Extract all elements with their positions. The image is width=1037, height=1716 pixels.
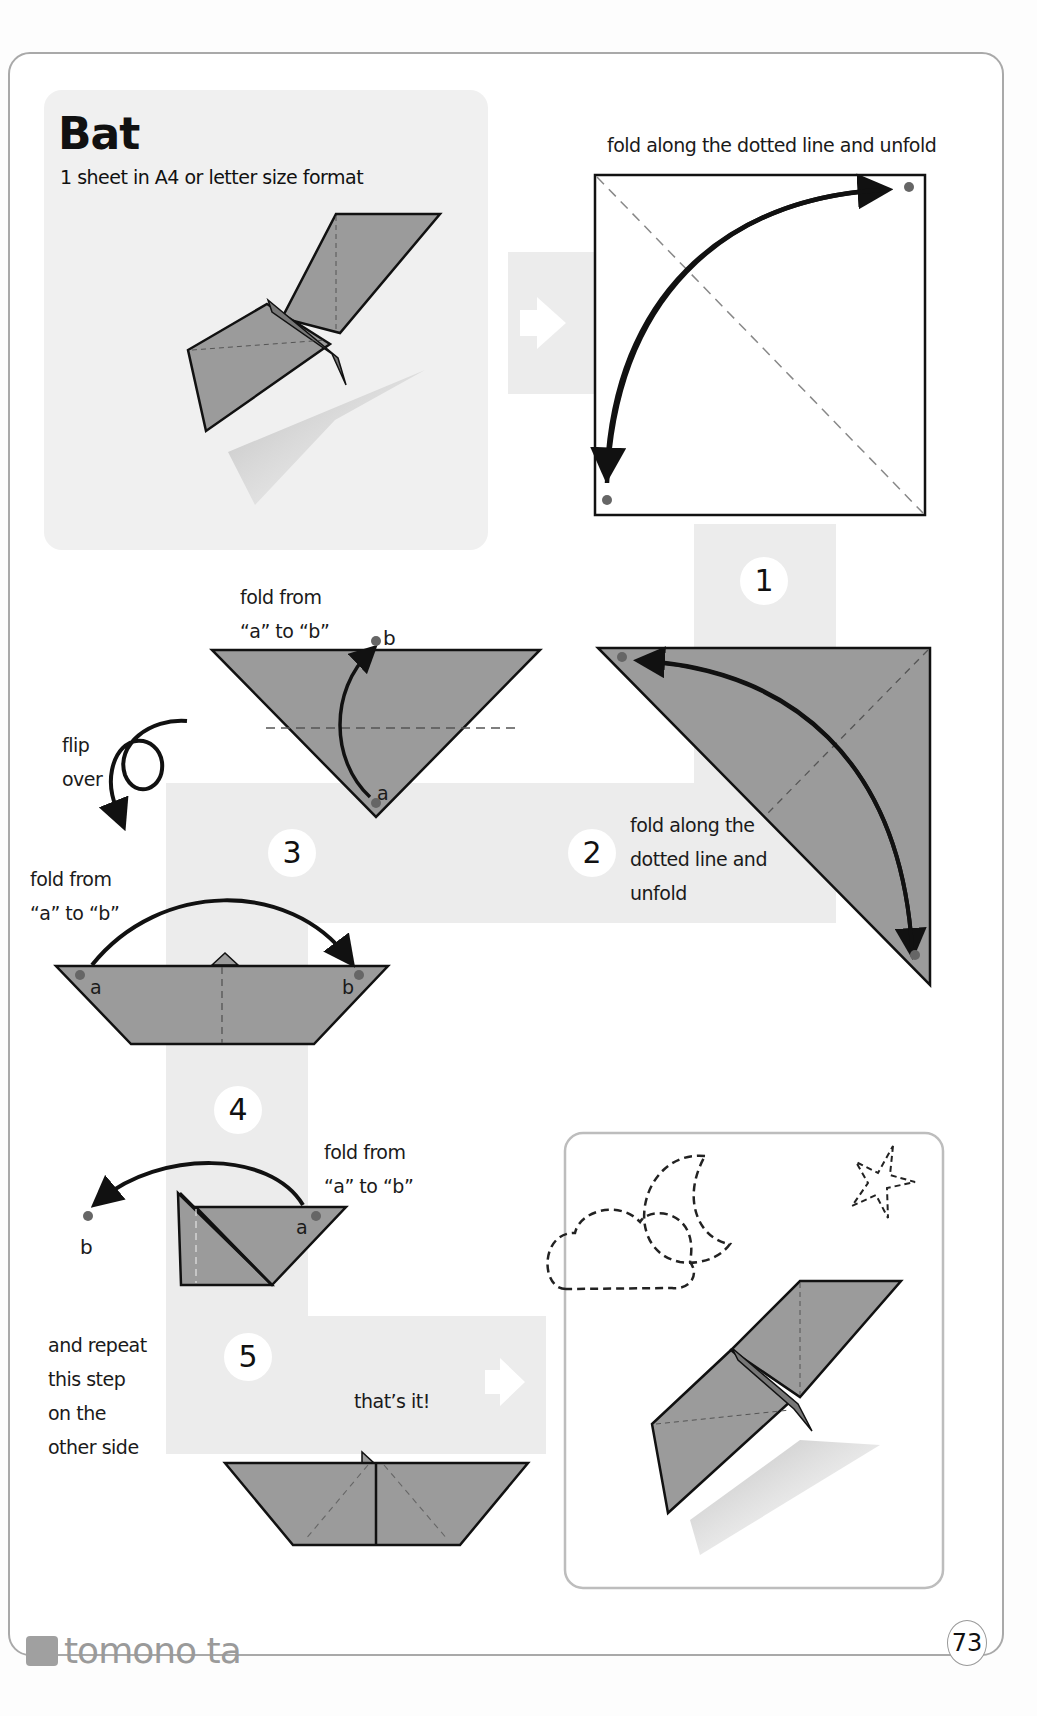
- brand-logo-icon: [26, 1636, 58, 1666]
- step1-instruction: fold along the dotted line and unfold: [607, 128, 936, 162]
- diagram-canvas: [0, 0, 1037, 1716]
- step4-point-b: b: [342, 970, 354, 1004]
- step4-number: 4: [214, 1086, 262, 1134]
- brand-logo: tomono ta: [26, 1630, 241, 1671]
- next-arrow-icon: [520, 297, 566, 349]
- step3-instruction: fold from “a” to “b”: [240, 580, 329, 648]
- step3-point-b: b: [383, 621, 395, 655]
- page-title: Bat: [58, 108, 139, 159]
- step5-point-b: b: [80, 1230, 92, 1264]
- page-number: 73: [947, 1620, 987, 1666]
- step2-instruction: fold along the dotted line and unfold: [630, 808, 767, 910]
- step5-instruction: fold from “a” to “b”: [324, 1135, 413, 1203]
- materials-note: 1 sheet in A4 or letter size format: [60, 166, 363, 188]
- next-arrow-icon-2: [485, 1358, 525, 1406]
- step4-point-a: a: [90, 970, 101, 1004]
- step5-result-illustration: [225, 1452, 528, 1545]
- step4-instruction: fold from “a” to “b”: [30, 862, 119, 930]
- step3-number: 3: [268, 829, 316, 877]
- repeat-note: and repeat this step on the other side: [48, 1328, 147, 1464]
- step2-number: 2: [568, 829, 616, 877]
- bat-preview-illustration: [188, 214, 440, 505]
- flip-over-note: flip over: [62, 728, 102, 796]
- step3-point-a: a: [377, 776, 388, 810]
- flip-over-icon: [111, 721, 187, 820]
- step3-illustration: [212, 636, 540, 817]
- step5-point-a: a: [296, 1210, 307, 1244]
- brand-name: tomono ta: [64, 1630, 241, 1671]
- done-note: that’s it!: [354, 1384, 430, 1418]
- step1-number: 1: [740, 557, 788, 605]
- step5-number: 5: [224, 1333, 272, 1381]
- step1-illustration: [595, 175, 925, 515]
